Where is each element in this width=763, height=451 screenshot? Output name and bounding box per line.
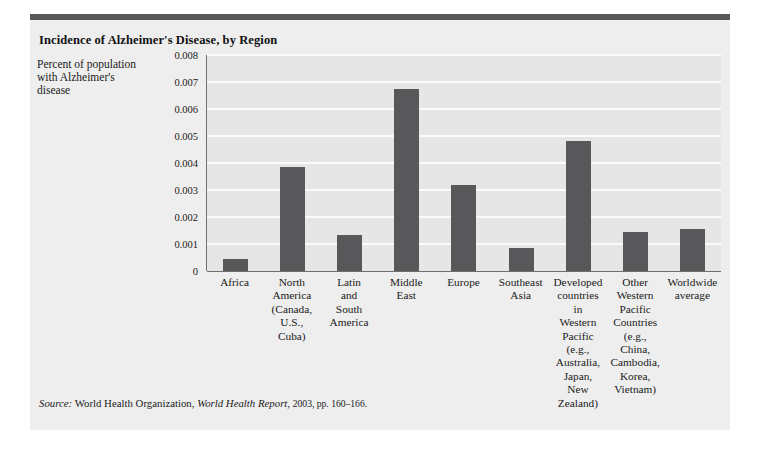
- bar-group: [207, 55, 721, 271]
- x-axis-label: SoutheastAsia: [492, 276, 549, 303]
- bar-slot: [607, 55, 664, 271]
- plot-area: [206, 55, 721, 271]
- bar: [394, 89, 419, 271]
- top-rule-divider: [30, 14, 730, 20]
- y-axis-tick-label: 0.006: [174, 104, 198, 115]
- bar: [223, 259, 248, 271]
- y-axis-tick-label: 0.005: [174, 131, 198, 142]
- bar-slot: [435, 55, 492, 271]
- bar-slot: [664, 55, 721, 271]
- bar: [337, 235, 362, 271]
- bar-slot: [378, 55, 435, 271]
- x-axis-label-group: AfricaNorthAmerica(Canada,U.S.,Cuba)Lati…: [206, 276, 721, 410]
- x-axis-label: Worldwideaverage: [664, 276, 721, 303]
- source-prefix: Source:: [39, 397, 72, 409]
- x-axis-label: OtherWesternPacificCountries(e.g.,China,…: [607, 276, 664, 397]
- y-axis-tick-column: 0.0080.0070.0060.0050.0040.0030.0020.001…: [161, 55, 202, 271]
- y-axis-tick-label: 0.001: [174, 239, 198, 250]
- source-details: 2003, pp. 160–166.: [293, 398, 367, 409]
- chart-title: Incidence of Alzheimer's Disease, by Reg…: [39, 33, 277, 48]
- bar: [680, 229, 705, 271]
- x-axis-label: Africa: [206, 276, 263, 289]
- y-axis-tick-label: 0.002: [174, 212, 198, 223]
- bar: [509, 248, 534, 271]
- source-report-title: World Health Report,: [197, 397, 290, 409]
- bar-slot: [207, 55, 264, 271]
- y-axis-tick-label: 0.004: [174, 158, 198, 169]
- y-axis-label: Percent of population with Alzheimer's d…: [37, 58, 141, 98]
- y-axis-tick-label: 0.003: [174, 185, 198, 196]
- y-axis-tick-label: 0: [193, 266, 198, 277]
- x-axis-label: Europe: [435, 276, 492, 289]
- chart-card: Incidence of Alzheimer's Disease, by Reg…: [30, 14, 730, 430]
- bar: [451, 185, 476, 271]
- x-axis-label: NorthAmerica(Canada,U.S.,Cuba): [263, 276, 320, 343]
- bar-slot: [550, 55, 607, 271]
- bar-slot: [264, 55, 321, 271]
- y-axis-tick-label: 0.008: [174, 50, 198, 61]
- x-axis-baseline: [207, 271, 721, 272]
- bar-slot: [493, 55, 550, 271]
- x-axis-label: DevelopedcountriesinWesternPacific(e.g.,…: [549, 276, 606, 410]
- plot-wrapper: 0.0080.0070.0060.0050.0040.0030.0020.001…: [161, 55, 721, 271]
- source-note: Source: World Health Organization, World…: [39, 397, 367, 409]
- bar: [566, 141, 591, 271]
- bar: [280, 167, 305, 271]
- x-axis-label: LatinandSouthAmerica: [320, 276, 377, 330]
- x-axis-label: MiddleEast: [378, 276, 435, 303]
- source-publisher: World Health Organization,: [75, 397, 195, 409]
- bar-slot: [321, 55, 378, 271]
- y-axis-tick-label: 0.007: [174, 77, 198, 88]
- bar: [623, 232, 648, 271]
